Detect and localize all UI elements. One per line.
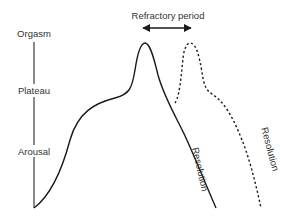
refractory-period-label: Refractory period [132, 10, 205, 21]
resolution-label-second: Resolution [259, 126, 281, 172]
stage-label-plateau: Plateau [18, 85, 50, 96]
second-response-curve [175, 43, 261, 208]
resolution-label-primary: Resolution [190, 146, 211, 192]
stage-label-arousal: Arousal [18, 146, 50, 157]
stage-label-orgasm: Orgasm [17, 28, 51, 39]
primary-response-curve [34, 43, 216, 208]
response-cycle-diagram: Orgasm Plateau Arousal Refractory period… [0, 0, 294, 220]
